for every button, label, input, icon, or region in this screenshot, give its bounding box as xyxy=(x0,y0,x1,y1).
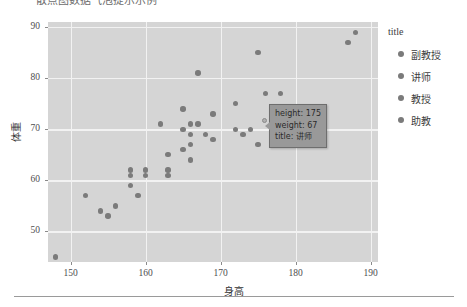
y-tick-mark xyxy=(45,27,48,28)
chart-root: 散点图数据气泡提示示例 5060708090150160170180190 身高… xyxy=(0,0,467,307)
x-tick-mark xyxy=(221,262,222,265)
x-tick-label: 160 xyxy=(131,268,161,278)
scatter-point[interactable] xyxy=(233,101,238,106)
legend-item-label: 助教 xyxy=(411,113,431,128)
legend-dot-icon xyxy=(398,51,404,57)
legend-dot-icon xyxy=(398,117,404,123)
y-tick-label: 50 xyxy=(14,225,40,235)
gridline-horizontal xyxy=(48,231,378,232)
scatter-point[interactable] xyxy=(158,121,163,126)
scatter-point[interactable] xyxy=(188,157,193,162)
clipped-heading-strip: 散点图数据气泡提示示例 xyxy=(0,0,467,7)
y-tick-mark xyxy=(45,129,48,130)
scatter-point[interactable] xyxy=(180,147,185,152)
gridline-horizontal xyxy=(48,78,378,79)
scatter-point[interactable] xyxy=(233,127,238,132)
scatter-point[interactable] xyxy=(165,152,170,157)
legend-item-label: 副教授 xyxy=(411,47,441,62)
scatter-point[interactable] xyxy=(165,167,170,172)
gridline-vertical xyxy=(146,22,147,262)
legend-item[interactable]: 讲师 xyxy=(388,65,466,87)
scatter-point[interactable] xyxy=(240,132,245,137)
legend-item[interactable]: 教授 xyxy=(388,87,466,109)
scatter-point[interactable] xyxy=(143,167,148,172)
tooltip-title-line: title: 讲师 xyxy=(275,131,322,143)
scatter-point[interactable] xyxy=(255,50,260,55)
y-tick-mark xyxy=(45,78,48,79)
scatter-point[interactable] xyxy=(210,111,215,116)
legend-item[interactable]: 副教授 xyxy=(388,43,466,65)
legend: title 副教授讲师教授助教 xyxy=(388,26,466,131)
legend-rows: 副教授讲师教授助教 xyxy=(388,43,466,131)
scatter-point[interactable] xyxy=(113,203,118,208)
scatter-point[interactable] xyxy=(128,173,133,178)
tooltip-height-line: height: 175 xyxy=(275,108,322,120)
legend-title: title xyxy=(388,26,466,37)
legend-item[interactable]: 助教 xyxy=(388,109,466,131)
x-tick-mark xyxy=(371,262,372,265)
tooltip-arrow-icon xyxy=(265,122,270,130)
y-tick-mark xyxy=(45,231,48,232)
data-tooltip: height: 175 weight: 67 title: 讲师 xyxy=(269,104,327,148)
y-tick-label: 60 xyxy=(14,174,40,184)
gridline-horizontal xyxy=(48,27,378,28)
scatter-point[interactable] xyxy=(353,30,358,35)
x-tick-mark xyxy=(296,262,297,265)
bottom-divider xyxy=(14,296,454,297)
legend-item-label: 讲师 xyxy=(411,69,431,84)
x-tick-label: 150 xyxy=(56,268,86,278)
x-tick-label: 190 xyxy=(356,268,386,278)
scatter-point[interactable] xyxy=(278,91,283,96)
scatter-point[interactable] xyxy=(263,91,268,96)
scatter-point[interactable] xyxy=(98,208,103,213)
plot-panel xyxy=(48,22,378,262)
scatter-point[interactable] xyxy=(210,137,215,142)
scatter-point[interactable] xyxy=(105,213,110,218)
scatter-point[interactable] xyxy=(195,70,200,75)
scatter-point[interactable] xyxy=(345,40,350,45)
gridline-horizontal xyxy=(48,129,378,130)
x-tick-label: 170 xyxy=(206,268,236,278)
scatter-point[interactable] xyxy=(128,183,133,188)
scatter-point[interactable] xyxy=(195,121,200,126)
scatter-point[interactable] xyxy=(188,121,193,126)
scatter-point[interactable] xyxy=(83,193,88,198)
tooltip-weight-line: weight: 67 xyxy=(275,120,322,132)
y-tick-label: 90 xyxy=(14,21,40,31)
legend-dot-icon xyxy=(398,95,404,101)
x-tick-mark xyxy=(146,262,147,265)
y-tick-mark xyxy=(45,180,48,181)
gridline-horizontal xyxy=(48,180,378,181)
x-tick-label: 180 xyxy=(281,268,311,278)
scatter-point[interactable] xyxy=(203,132,208,137)
clipped-heading-text: 散点图数据气泡提示示例 xyxy=(36,0,157,7)
legend-dot-icon xyxy=(398,73,404,79)
y-axis-title: 体重 xyxy=(8,122,23,142)
scatter-point[interactable] xyxy=(143,173,148,178)
y-tick-label: 80 xyxy=(14,72,40,82)
x-tick-mark xyxy=(71,262,72,265)
gridline-vertical xyxy=(221,22,222,262)
scatter-point[interactable] xyxy=(128,167,133,172)
scatter-point[interactable] xyxy=(188,142,193,147)
gridline-vertical xyxy=(371,22,372,262)
legend-item-label: 教授 xyxy=(411,91,431,106)
scatter-point[interactable] xyxy=(135,193,140,198)
scatter-point[interactable] xyxy=(255,142,260,147)
scatter-point[interactable] xyxy=(180,127,185,132)
gridline-vertical xyxy=(71,22,72,262)
scatter-point[interactable] xyxy=(180,106,185,111)
scatter-point[interactable] xyxy=(165,173,170,178)
scatter-point[interactable] xyxy=(248,127,253,132)
scatter-point[interactable] xyxy=(53,254,58,259)
scatter-point[interactable] xyxy=(188,132,193,137)
